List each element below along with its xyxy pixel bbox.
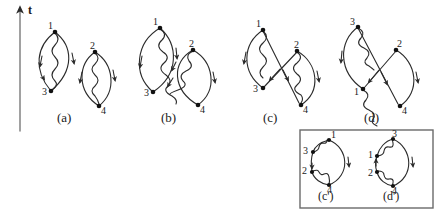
vertex-d-1: [361, 87, 366, 92]
propagator-c-1-3-left: [247, 30, 263, 88]
label-b-2: 2: [189, 38, 194, 49]
arrowhead-c-1-4: [283, 70, 288, 80]
propagator-cp-right: [329, 140, 345, 185]
arrowhead-b-inner: [176, 48, 177, 58]
label-b-1: 1: [153, 16, 158, 27]
label-dp-1: 1: [368, 149, 373, 160]
label-c-3: 3: [253, 83, 258, 94]
arrowhead-a-right: [72, 53, 74, 63]
propagator-d-3-4: [358, 28, 398, 104]
caption-d: (d): [364, 110, 379, 126]
interaction-a-24: [92, 53, 99, 104]
interaction-a-13: [52, 33, 58, 90]
label-b-4: 4: [200, 104, 205, 115]
label-cp-3: 3: [303, 145, 308, 156]
arrowhead-cp-right: [348, 157, 349, 166]
label-d-2: 2: [397, 38, 402, 49]
label-cp-1: 1: [331, 129, 336, 140]
interaction-cp-3-1: [314, 140, 327, 152]
propagator-cp-3-2: [311, 152, 313, 172]
propagator-c-2-3: [264, 52, 297, 87]
label-dp-3: 3: [392, 128, 397, 139]
diagram-b: [139, 28, 215, 105]
vertex-cp-3: [311, 150, 315, 154]
diagram-a: [39, 32, 115, 106]
figure-canvas: 1 3 2 4 1 3 2 4 1 3 2 4 3 1 2 4 1 3 2 4 …: [0, 0, 444, 221]
vertex-a-3: [49, 89, 54, 94]
label-a-1: 1: [48, 20, 53, 31]
caption-c: (c): [263, 110, 277, 126]
vertex-b-3: [151, 90, 156, 95]
arrowhead-a2-right: [113, 70, 115, 80]
propagator-b-1-3-left: [139, 28, 160, 92]
interaction-c-1-3: [260, 31, 267, 78]
label-c-1: 1: [256, 18, 261, 29]
caption-a: (a): [57, 110, 71, 126]
arrowhead-b-left: [140, 56, 142, 67]
arrowhead-d-left: [341, 51, 342, 62]
arrowhead-b-right: [213, 72, 215, 82]
vertex-a-1: [53, 30, 58, 35]
vertex-dp-1: [375, 154, 379, 158]
diagram-d-prime: [376, 139, 414, 186]
diagram-c-prime: [311, 140, 349, 185]
label-c-4: 4: [303, 104, 308, 115]
arrowhead-b-mid: [168, 78, 173, 86]
interaction-cp-2-4: [313, 170, 330, 184]
label-a-4: 4: [101, 105, 106, 116]
interaction-d-3-2: [358, 28, 374, 70]
label-d-4: 4: [402, 105, 407, 116]
arrowhead-c-2-3: [270, 69, 280, 80]
caption-d-prime: (d'): [383, 189, 399, 204]
propagator-d-3-1-left: [344, 27, 363, 89]
label-a-3: 3: [42, 86, 47, 97]
label-b-3: 3: [144, 87, 149, 98]
label-d-3: 3: [350, 16, 355, 27]
arrowhead-d-2-1: [369, 70, 379, 82]
label-c-2: 2: [294, 39, 299, 50]
propagator-d-2-4-right: [396, 50, 414, 106]
propagator-b-2-4-right: [193, 50, 211, 105]
caption-b: (b): [161, 110, 176, 126]
arrowhead-d-3-4: [381, 72, 387, 84]
arrowhead-d-right: [416, 72, 418, 82]
arrowhead-c-left: [244, 52, 246, 63]
time-axis-label: t: [28, 3, 32, 18]
label-dp-2: 2: [368, 167, 373, 178]
label-d-1: 1: [354, 86, 359, 97]
vertex-cp-2: [310, 170, 314, 174]
vertex-c-1: [261, 28, 266, 33]
propagator-dp-right: [393, 139, 409, 186]
label-a-2: 2: [90, 40, 95, 51]
vertex-d-3: [356, 25, 361, 30]
label-cp-2: 2: [302, 165, 307, 176]
vertex-dp-2: [375, 170, 379, 174]
arrowhead-c-right: [317, 71, 319, 81]
propagator-a-right-arc: [51, 32, 69, 91]
arrowhead-dp-right: [412, 157, 413, 166]
vertex-b-1: [158, 26, 163, 31]
vertex-c-3: [261, 86, 266, 91]
caption-c-prime: (c'): [318, 189, 333, 204]
